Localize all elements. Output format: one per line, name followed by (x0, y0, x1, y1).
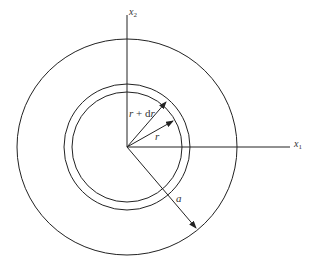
r-label: r (155, 130, 160, 142)
annulus-diagram: x2 x1 r + dr r a (0, 0, 312, 268)
x1-axis-label: x1 (293, 138, 302, 151)
x2-axis-label: x2 (128, 6, 137, 19)
diagram-svg: x2 x1 r + dr r a (0, 0, 312, 268)
a-arrow (127, 147, 196, 228)
a-label: a (176, 192, 182, 204)
r-arrow (127, 121, 173, 147)
r-plus-dr-label: r + dr (129, 107, 156, 119)
